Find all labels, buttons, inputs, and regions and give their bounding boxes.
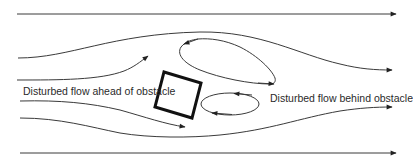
- streamline-upper: [18, 32, 392, 70]
- streamline-lower: [20, 107, 392, 137]
- label-flow-behind: Disturbed flow behind obstacle: [270, 93, 413, 104]
- label-flow-ahead: Disturbed flow ahead of obstacle: [23, 86, 175, 97]
- eddy-upper: [180, 39, 276, 84]
- streamline-ahead-upper: [17, 56, 148, 80]
- eddy-upper-arrow-top: [184, 39, 198, 44]
- eddy-lower: [201, 93, 259, 115]
